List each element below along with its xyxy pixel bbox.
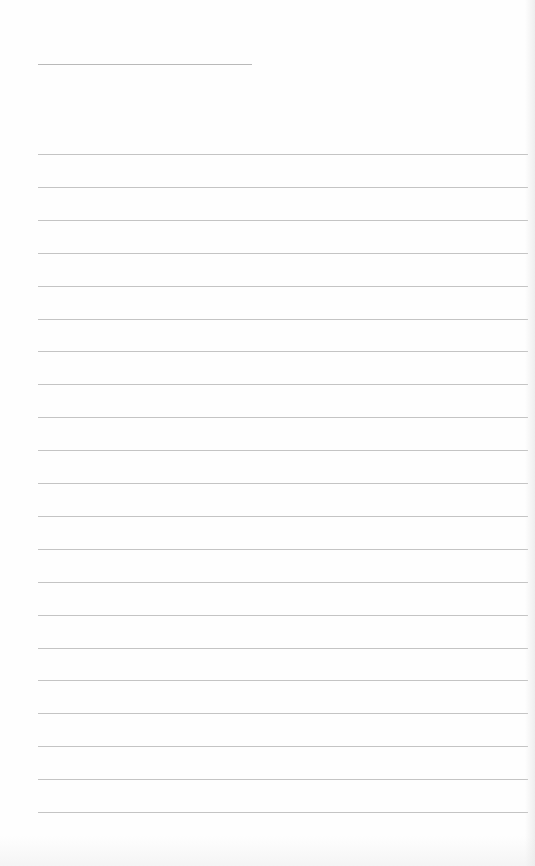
ruled-lines (0, 0, 535, 866)
ruled-line (38, 516, 528, 517)
ruled-line (38, 648, 528, 649)
ruled-line (38, 187, 528, 188)
ruled-line (38, 319, 528, 320)
ruled-line (38, 779, 528, 780)
ruled-line (38, 253, 528, 254)
ruled-line (38, 417, 528, 418)
ruled-line (38, 483, 528, 484)
ruled-line (38, 384, 528, 385)
ruled-line (38, 680, 528, 681)
ruled-line (38, 615, 528, 616)
ruled-line (38, 286, 528, 287)
ruled-line (38, 351, 528, 352)
ruled-line (38, 582, 528, 583)
notebook-page (0, 0, 535, 866)
ruled-line (38, 746, 528, 747)
ruled-line (38, 713, 528, 714)
ruled-line (38, 812, 528, 813)
ruled-line (38, 154, 528, 155)
ruled-line (38, 220, 528, 221)
ruled-line (38, 549, 528, 550)
ruled-line (38, 450, 528, 451)
page-bottom-shadow (0, 836, 535, 866)
page-edge-shadow (525, 0, 535, 866)
